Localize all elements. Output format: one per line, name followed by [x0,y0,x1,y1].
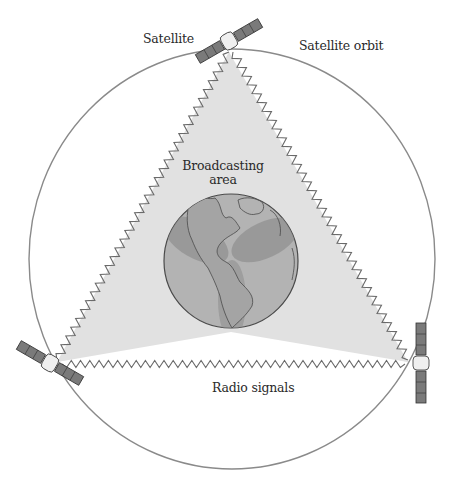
broadcasting-area-label: Broadcasting area [180,159,266,187]
satellite-icon [413,323,429,403]
broadcasting-area-line1: Broadcasting [180,159,266,173]
satellite-broadcast-diagram [0,0,452,490]
radio-wave-icon [62,361,405,368]
satellite-orbit-label: Satellite orbit [299,38,383,53]
satellite-label: Satellite [143,31,194,46]
broadcasting-area-line2: area [180,173,266,187]
radio-signals-label: Radio signals [212,380,294,395]
